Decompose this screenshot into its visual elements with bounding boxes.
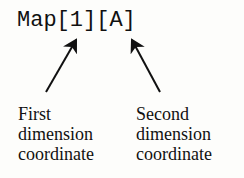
- diagram: Map[1][A] First dimension coordinate Sec…: [0, 0, 244, 178]
- first-arrow: [46, 40, 76, 92]
- second-dimension-label: Second dimension coordinate: [136, 104, 212, 164]
- second-arrow: [132, 40, 160, 92]
- first-dimension-label: First dimension coordinate: [18, 104, 94, 164]
